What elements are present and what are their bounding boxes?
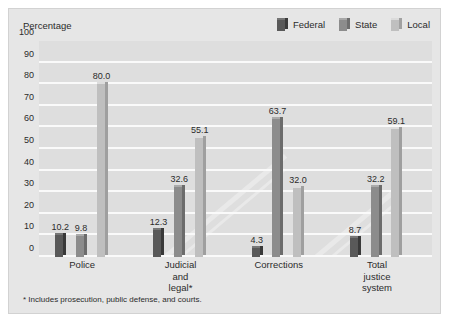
bar-value-label: 32.2 — [367, 174, 385, 184]
bar-slot: 55.1 — [195, 41, 208, 257]
bar-side — [63, 233, 66, 255]
bar-face — [195, 138, 203, 257]
bar-slot: 59.1 — [391, 41, 404, 257]
chart-footnote: * Includes prosecution, public defense, … — [23, 295, 202, 304]
bar-group: 12.332.655.1 — [153, 41, 207, 257]
bar-value-label: 80.0 — [93, 71, 111, 81]
y-tick-label: 90 — [24, 49, 34, 59]
y-tick-label: 70 — [24, 92, 34, 102]
legend-item-federal[interactable]: Federal — [277, 18, 325, 31]
bar-face — [97, 84, 105, 257]
bar-slot: 9.8 — [76, 41, 89, 257]
y-tick-label: 50 — [24, 135, 34, 145]
chart-panel: Percentage FederalStateLocal 01020304050… — [8, 8, 441, 314]
bar-face — [293, 188, 301, 257]
bar-face — [371, 187, 379, 257]
legend-swatch-local-icon — [391, 18, 402, 31]
bar-side — [203, 136, 206, 255]
bar-chart-figure: Percentage FederalStateLocal 01020304050… — [0, 0, 449, 322]
bar-slot: 10.2 — [55, 41, 68, 257]
bar-group: 10.29.880.0 — [55, 41, 109, 257]
bar-side — [358, 236, 361, 255]
legend-swatch-federal-icon — [277, 18, 288, 31]
bar-local[interactable]: 55.1 — [195, 138, 205, 257]
legend-swatch-state-icon — [339, 18, 350, 31]
bar-federal[interactable]: 8.7 — [350, 238, 360, 257]
bar-side — [379, 185, 382, 255]
bar-face — [76, 236, 84, 257]
bar-face — [350, 238, 358, 257]
bar-face — [55, 235, 63, 257]
y-tick-label: 40 — [24, 157, 34, 167]
bar-value-label: 32.6 — [170, 174, 188, 184]
legend-item-state[interactable]: State — [339, 18, 377, 31]
x-axis-label: Police — [69, 259, 95, 271]
bar-face — [252, 248, 260, 257]
bar-value-label: 4.3 — [250, 235, 263, 245]
bar-slot: 80.0 — [97, 41, 110, 257]
bar-face — [153, 230, 161, 257]
bar-group: 4.363.732.0 — [252, 41, 306, 257]
bar-face — [391, 129, 399, 257]
legend-label: Local — [407, 19, 430, 30]
bar-value-label: 63.7 — [269, 106, 287, 116]
x-axis-label: Corrections — [254, 259, 303, 271]
bar-value-label: 12.3 — [150, 217, 168, 227]
bar-local[interactable]: 80.0 — [97, 84, 107, 257]
bar-side — [260, 246, 263, 255]
plot-area: 10.29.880.012.332.655.14.363.732.08.732.… — [39, 41, 432, 257]
bar-value-label: 8.7 — [349, 225, 362, 235]
x-axis-label: Judicial and legal* — [165, 259, 197, 294]
y-axis-ticks: 0102030405060708090100 — [9, 41, 37, 257]
legend-label: State — [355, 19, 377, 30]
y-tick-label: 100 — [19, 27, 34, 37]
y-tick-label: 10 — [24, 221, 34, 231]
bar-side — [399, 127, 402, 255]
legend-label: Federal — [293, 19, 325, 30]
y-tick-label: 0 — [29, 243, 34, 253]
y-tick-label: 80 — [24, 70, 34, 80]
bar-side — [161, 228, 164, 255]
bar-federal[interactable]: 12.3 — [153, 230, 163, 257]
bar-state[interactable]: 32.6 — [174, 187, 184, 257]
bar-local[interactable]: 32.0 — [293, 188, 303, 257]
bar-value-label: 55.1 — [191, 125, 209, 135]
bar-side — [84, 234, 87, 255]
bar-side — [182, 185, 185, 255]
bar-local[interactable]: 59.1 — [391, 129, 401, 257]
x-axis-label: Total justice system — [362, 259, 392, 294]
bar-state[interactable]: 63.7 — [272, 119, 282, 257]
bar-slot: 32.6 — [174, 41, 187, 257]
bar-state[interactable]: 9.8 — [76, 236, 86, 257]
bar-side — [301, 186, 304, 255]
bar-value-label: 9.8 — [75, 223, 88, 233]
bar-group: 8.732.259.1 — [350, 41, 404, 257]
bar-slot: 32.0 — [293, 41, 306, 257]
bar-side — [105, 82, 108, 255]
y-tick-label: 60 — [24, 113, 34, 123]
bar-federal[interactable]: 10.2 — [55, 235, 65, 257]
bar-value-label: 10.2 — [51, 222, 69, 232]
bar-value-label: 32.0 — [289, 175, 307, 185]
chart-legend: FederalStateLocal — [277, 18, 430, 31]
y-tick-label: 30 — [24, 178, 34, 188]
legend-item-local[interactable]: Local — [391, 18, 430, 31]
bar-slot: 63.7 — [272, 41, 285, 257]
bar-slot: 12.3 — [153, 41, 166, 257]
bar-slot: 32.2 — [371, 41, 384, 257]
y-tick-label: 20 — [24, 200, 34, 210]
bar-state[interactable]: 32.2 — [371, 187, 381, 257]
bar-value-label: 59.1 — [388, 116, 406, 126]
bar-face — [272, 119, 280, 257]
bar-face — [174, 187, 182, 257]
bar-slot: 4.3 — [252, 41, 265, 257]
bar-federal[interactable]: 4.3 — [252, 248, 262, 257]
bar-side — [280, 117, 283, 255]
bar-slot: 8.7 — [350, 41, 363, 257]
